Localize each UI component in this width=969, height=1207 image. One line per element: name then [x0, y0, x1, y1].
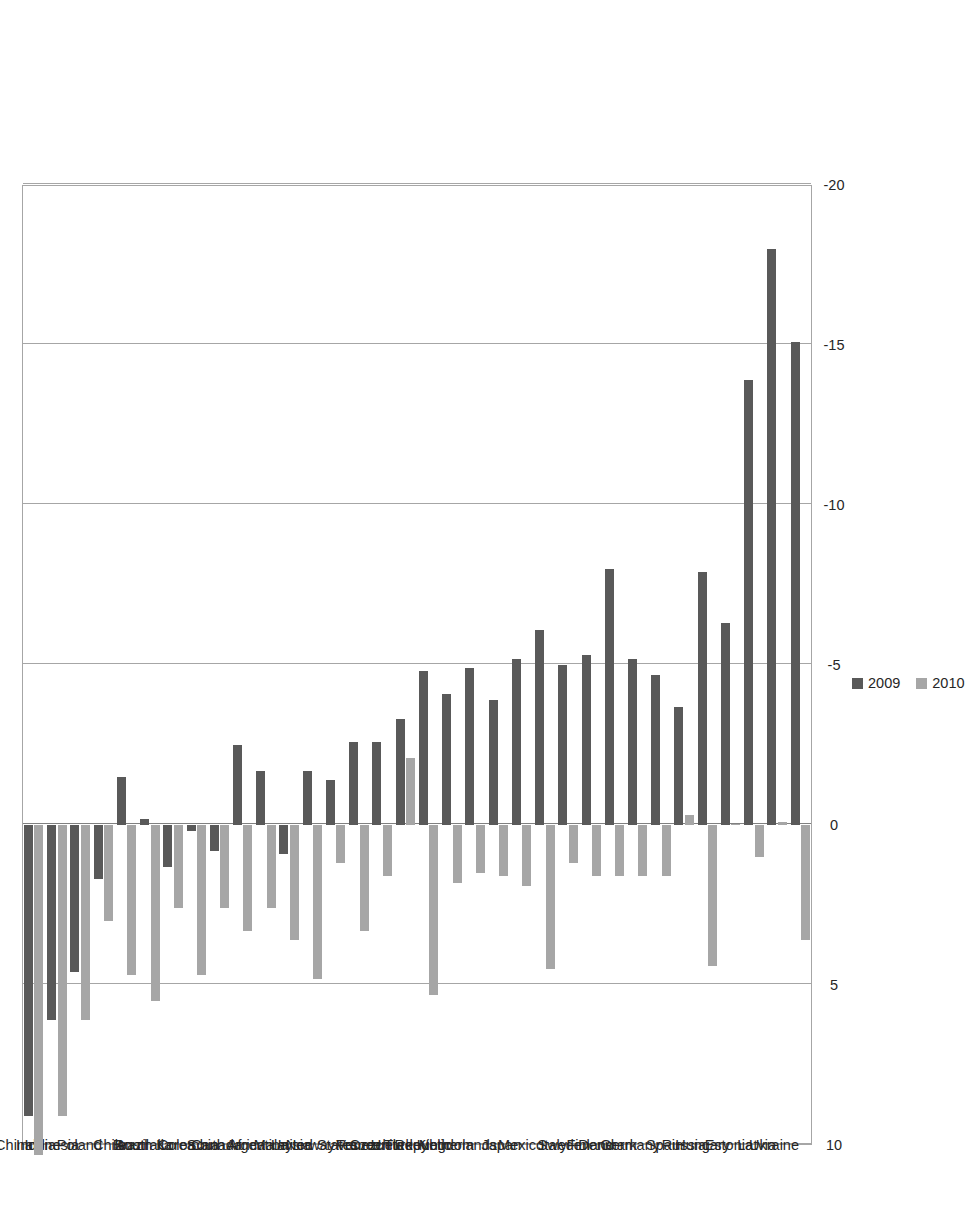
chart-legend: 20092010: [852, 675, 969, 691]
bar-2010: [801, 825, 810, 940]
bar-2009: [303, 771, 312, 825]
bar-2010: [755, 825, 764, 857]
value-axis-tick-label: -5: [816, 657, 852, 673]
gridline: [23, 983, 811, 984]
bar-2009: [279, 825, 288, 854]
bar-2009: [721, 623, 730, 825]
bar-2009: [582, 655, 591, 825]
bar-2009: [628, 659, 637, 825]
bar-2009: [465, 668, 474, 825]
bar-2009: [791, 342, 800, 825]
bar-2010: [638, 825, 647, 876]
bar-2010: [685, 815, 694, 825]
bar-2009: [326, 780, 335, 825]
bar-2010: [81, 825, 90, 1020]
value-axis-tick-label: 0: [816, 817, 852, 833]
bar-2010: [290, 825, 299, 940]
value-axis-tick-label: -15: [816, 337, 852, 353]
legend-item-2009[interactable]: 2009: [852, 675, 900, 691]
value-axis-tick-label: -20: [816, 177, 852, 193]
bar-2010: [383, 825, 392, 876]
bar-2009: [674, 707, 683, 825]
gridline: [23, 663, 811, 664]
bar-2010: [174, 825, 183, 908]
bar-2010: [662, 825, 671, 876]
gridline: [23, 183, 811, 184]
legend-item-2010[interactable]: 2010: [916, 675, 964, 691]
bar-2009: [117, 777, 126, 825]
bar-2009: [512, 659, 521, 825]
bar-2009: [70, 825, 79, 972]
bar-2009: [605, 569, 614, 825]
bar-2010: [34, 825, 43, 1155]
bar-2010: [336, 825, 345, 863]
bar-2010: [569, 825, 578, 863]
bar-2009: [233, 745, 242, 825]
bar-2010: [522, 825, 531, 886]
bar-2009: [698, 572, 707, 825]
legend-label: 2009: [868, 675, 900, 691]
bar-2009: [94, 825, 103, 879]
gridline: [23, 343, 811, 344]
bar-2009: [651, 675, 660, 825]
bar-2010: [731, 824, 740, 825]
gridline: [23, 503, 811, 504]
value-axis-tick-label: 10: [816, 1137, 852, 1153]
bar-2009: [372, 742, 381, 825]
bar-2009: [349, 742, 358, 825]
bar-2010: [220, 825, 229, 908]
bar-2010: [58, 825, 67, 1116]
bar-2010: [267, 825, 276, 908]
legend-label: 2010: [932, 675, 964, 691]
bar-2010: [127, 825, 136, 975]
value-axis-tick-label: -10: [816, 497, 852, 513]
category-label: Ukraine: [649, 1137, 799, 1153]
value-axis-tick-label: 5: [816, 977, 852, 993]
bar-2009: [163, 825, 172, 867]
bar-2010: [546, 825, 555, 969]
plot-area: [22, 185, 812, 1145]
bar-2010: [592, 825, 601, 876]
bar-2009: [535, 630, 544, 825]
legend-swatch-icon: [916, 678, 927, 689]
bar-2009: [24, 825, 33, 1116]
bar-2009: [140, 819, 149, 825]
bar-2010: [243, 825, 252, 931]
bar-2010: [360, 825, 369, 931]
bar-2009: [47, 825, 56, 1020]
bar-2010: [615, 825, 624, 876]
legend-swatch-icon: [852, 678, 863, 689]
bar-2009: [210, 825, 219, 851]
bar-2010: [429, 825, 438, 995]
bar-2010: [406, 758, 415, 825]
bar-2009: [558, 665, 567, 825]
bar-2009: [442, 694, 451, 825]
bar-2010: [313, 825, 322, 979]
bar-2010: [476, 825, 485, 873]
bar-2010: [151, 825, 160, 1001]
bar-2009: [419, 671, 428, 825]
bar-2009: [744, 380, 753, 825]
bar-2009: [256, 771, 265, 825]
bar-2009: [396, 719, 405, 825]
bar-2010: [708, 825, 717, 966]
bar-2009: [489, 700, 498, 825]
bar-2010: [104, 825, 113, 921]
bar-2010: [778, 822, 787, 825]
bar-2010: [499, 825, 508, 876]
bar-2010: [197, 825, 206, 975]
bar-2009: [767, 249, 776, 825]
bar-2010: [453, 825, 462, 883]
bar-2009: [187, 825, 196, 831]
